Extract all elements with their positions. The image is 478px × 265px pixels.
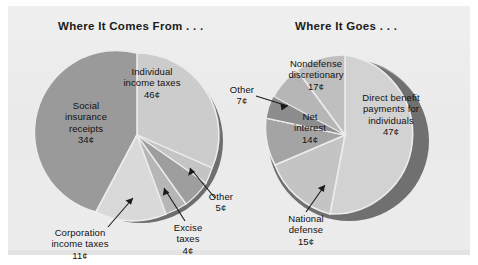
label-net-interest: Net interest 14¢ — [288, 111, 332, 145]
label-social-insurance-receipts: Social insurance receipts 34¢ — [55, 100, 117, 146]
label-individual-income-taxes: Individual income taxes 46¢ — [114, 66, 190, 100]
label-other-left: Other 5¢ — [203, 191, 239, 214]
label-national-defense: National defense 15¢ — [278, 213, 334, 247]
figure-root: Where It Comes From . . . Where It Goes … — [0, 0, 478, 265]
label-corporation-income-taxes: Corporation income taxes 11¢ — [40, 227, 120, 261]
label-direct-benefit-payments: Direct benefit payments for individuals … — [352, 92, 430, 138]
label-nondefense-discretionary: Nondefense discretionary 17¢ — [282, 58, 350, 92]
label-excise-taxes: Excise taxes 4¢ — [166, 222, 210, 256]
label-other-right: Other 7¢ — [226, 84, 258, 107]
